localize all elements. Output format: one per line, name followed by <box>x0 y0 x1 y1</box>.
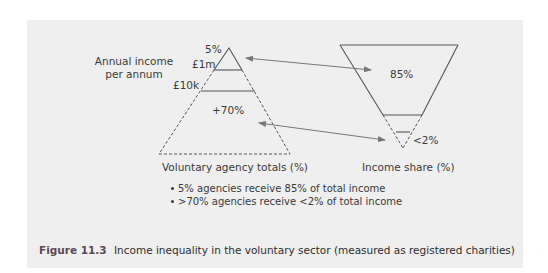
band-label-10k: £10k <box>173 79 199 92</box>
summary-bullets: 5% agencies receive 85% of total income … <box>171 182 402 208</box>
axis-label-annual-income: Annual income per annum <box>88 55 180 80</box>
arrow-bottom-share <box>259 123 385 140</box>
left-pyramid-title: Voluntary agency totals (%) <box>162 161 308 174</box>
inequality-diagram <box>0 0 548 273</box>
right-pyramid-title: Income share (%) <box>362 161 455 174</box>
bullet-item: >70% agencies receive <2% of total incom… <box>171 195 402 208</box>
bullet-dot-icon <box>171 200 174 203</box>
band-label-1m: £1m <box>192 58 216 71</box>
apex-label: 5% <box>205 43 222 56</box>
figure-label: Figure 11.3 <box>39 244 107 256</box>
top-share-label: 85% <box>390 68 413 81</box>
bottom-share-label: <2% <box>413 134 438 147</box>
figure-caption-text: Income inequality in the voluntary secto… <box>114 244 515 256</box>
figure-caption: Figure 11.3 Income inequality in the vol… <box>39 244 515 256</box>
bullet-item: 5% agencies receive 85% of total income <box>171 182 402 195</box>
income-share-pyramid <box>340 45 458 148</box>
base-label: +70% <box>212 104 244 117</box>
bullet-dot-icon <box>171 187 174 190</box>
